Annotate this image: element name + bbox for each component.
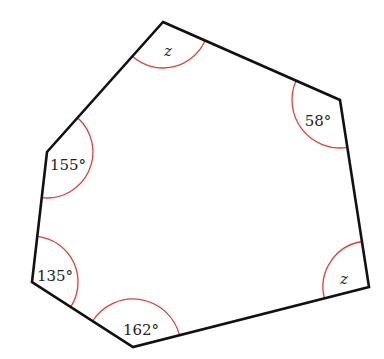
angle-label-lower-right: z [339,270,348,288]
hexagon-angle-diagram: z58°z162°135°155° [0,0,384,359]
angle-arcs [37,41,362,336]
angle-labels: z58°z162°135°155° [37,42,348,339]
angle-label-upper-right: 58° [305,112,332,130]
angle-label-bottom: 162° [123,321,159,339]
angle-label-top: z [163,42,172,60]
hexagon-outline [32,22,369,347]
angle-label-lower-left: 135° [37,267,73,285]
angle-label-upper-left: 155° [50,156,86,174]
diagram-canvas: z58°z162°135°155° [0,0,384,359]
